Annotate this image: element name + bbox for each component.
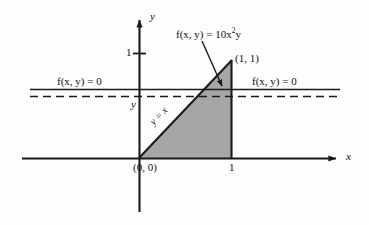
y-level-label: y [131,99,136,110]
zero-density-label-right: f(x, y) = 0 [252,76,297,87]
zero-density-label-left: f(x, y) = 0 [57,76,102,87]
density-label-pointer-arrow [202,41,222,86]
y-axis-tick-label-1: 1 [126,47,132,58]
corner-point-label: (1, 1) [235,53,259,64]
density-formula-suffix: y [235,28,241,40]
x-axis-tick-label-1: 1 [229,162,235,173]
density-formula-prefix: f(x, y) = 10x [176,28,232,40]
y-axis-label: y [150,11,155,22]
x-axis-label: x [346,151,351,162]
origin-point-label: (0, 0) [133,162,157,173]
math-figure: y x 1 1 (0, 0) (1, 1) f(x, y) = 10x2y f(… [0,0,369,225]
density-formula-label: f(x, y) = 10x2y [176,27,241,40]
